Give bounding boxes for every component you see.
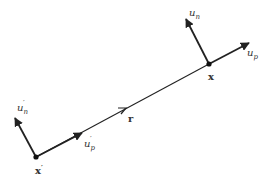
- label-u-p: up: [247, 47, 258, 61]
- label-r: r: [128, 113, 134, 124]
- u-p-arrow: [209, 43, 249, 64]
- label-u-n: un: [189, 7, 200, 21]
- u-n-prime-arrow: [15, 118, 36, 157]
- label-x: x: [208, 71, 215, 82]
- vector-diagram: un′ up′ x′ r un up x: [0, 0, 269, 184]
- u-p-prime-arrow: [36, 133, 82, 157]
- label-x-prime: x′: [35, 163, 43, 176]
- label-u-p-prime: up′: [84, 135, 95, 152]
- point-x: [206, 61, 211, 66]
- label-u-n-prime: un′: [17, 99, 28, 116]
- point-x-prime: [33, 154, 38, 159]
- u-n-arrow: [186, 19, 209, 64]
